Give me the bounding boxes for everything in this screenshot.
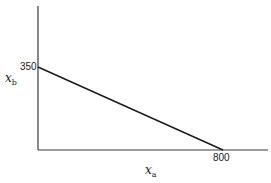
x-intercept-label: 800 — [213, 153, 230, 163]
y-axis-sub: b — [12, 78, 17, 87]
y-intercept-label: 350 — [20, 62, 37, 72]
y-axis-var: x — [5, 71, 12, 85]
constraint-line — [38, 67, 223, 150]
x-axis-label: xa — [145, 164, 157, 179]
y-axis-label: xb — [5, 72, 17, 87]
chart-canvas — [0, 0, 271, 183]
x-axis-sub: a — [152, 170, 157, 179]
x-axis-var: x — [145, 163, 152, 177]
